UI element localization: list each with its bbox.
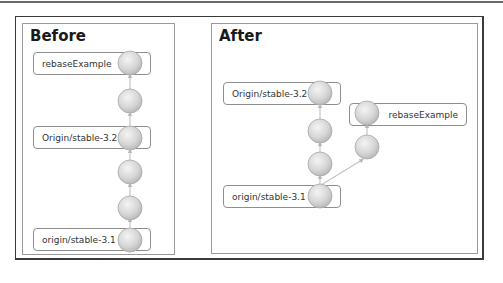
commit-node <box>355 101 379 125</box>
commit-node <box>308 152 332 176</box>
commit-node <box>308 184 332 208</box>
commit-node <box>118 126 142 150</box>
commit-node <box>308 81 332 105</box>
commit-node <box>118 89 142 113</box>
commit-node <box>118 160 142 184</box>
commit-graph <box>0 0 503 283</box>
commit-node <box>355 135 379 159</box>
commit-node <box>308 119 332 143</box>
commit-node <box>118 51 142 75</box>
after-commits <box>308 81 379 208</box>
commit-node <box>118 228 142 252</box>
commit-node <box>118 196 142 220</box>
